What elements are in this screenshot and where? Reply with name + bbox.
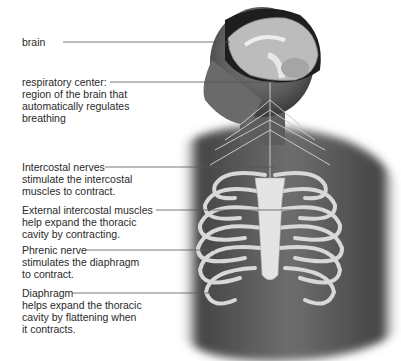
label-intercostal-nerves: Intercostal nerves stimulate the interco… (22, 161, 132, 197)
label-diaphragm: Diaphragm helps expand the thoracic cavi… (22, 287, 142, 335)
label-external-intercostal-muscles: External intercostal muscles help expand… (22, 204, 153, 240)
torso (180, 126, 400, 361)
label-respiratory-center: respiratory center: region of the brain … (22, 76, 129, 124)
label-brain: brain (22, 36, 45, 48)
label-phrenic-nerve: Phrenic nerve stimulates the diaphragm t… (22, 244, 139, 280)
